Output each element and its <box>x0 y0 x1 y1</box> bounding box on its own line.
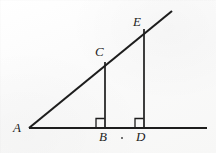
point-label-e: E <box>133 15 141 28</box>
point-label-d: D <box>136 130 145 143</box>
point-label-a: A <box>13 121 21 134</box>
point-label-c: C <box>95 45 104 58</box>
right-angle-marker-B <box>96 119 105 128</box>
ink-dot <box>121 137 123 139</box>
geometry-canvas <box>0 0 216 153</box>
right-angle-marker-D <box>135 119 144 128</box>
diagonal-ray-AE <box>29 11 172 128</box>
point-label-b: B <box>99 130 107 143</box>
geometry-figure: A B C D E <box>0 0 216 153</box>
